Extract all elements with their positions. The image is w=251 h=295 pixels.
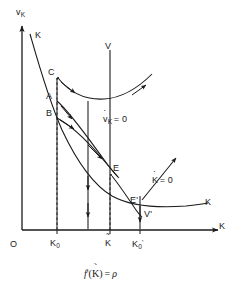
k-tilde-glyph: K [105,239,111,248]
point-a-label: A [46,92,52,101]
caption-k-tilde-glyph: K [92,268,99,279]
x-tick-label-Ktilde: K [105,239,111,248]
stable-arm-V-arrow-left [61,82,75,93]
v-prime-locus-label: V' [144,210,152,219]
trajectory-B-arrow-1 [60,120,74,129]
phase-diagram-figure: vK K O K V V' K C A B E E' vK= 0 K= 0 K0… [0,0,251,295]
x-tick-label-K0prime: K0' [132,239,144,251]
vdot-zero-label: vK= 0 [103,115,127,125]
stable-arm-V [58,74,152,99]
k-curve-top-label: K [35,31,41,40]
figure-caption: f'(K) = ρ [84,268,117,279]
dashed-guides [57,78,110,230]
point-e-prime-label: E' [130,196,138,205]
point-b-label: B [46,109,52,118]
stable-arm-V-arrow-right [132,85,146,95]
k-curve-right-label: K [205,198,211,207]
x-axis-label: K [219,222,225,231]
k-dot-glyph: K [152,176,158,185]
kdot-zero-label: K= 0 [152,176,173,185]
trajectory-A-arrow [61,106,72,119]
marker-C [57,77,59,79]
point-e-label: E [113,164,119,173]
v-locus-label: V [105,42,111,51]
y-axis-label: vK [16,8,25,18]
v-dot-glyph: v [103,115,108,124]
origin-label: O [10,240,17,249]
point-c-label: C [48,68,55,77]
marker-E [110,174,112,176]
x-tick-label-K0: K0 [50,239,60,249]
phase-diagram-canvas [0,0,251,295]
